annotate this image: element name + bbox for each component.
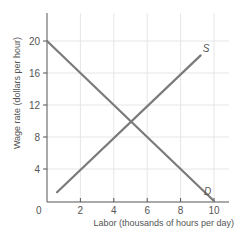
y-tick-label: 20 <box>29 36 41 47</box>
x-tick-label: 6 <box>144 205 150 216</box>
x-tick-label: 8 <box>178 205 184 216</box>
curve-label-d: D <box>204 186 211 197</box>
y-tick-label: 8 <box>34 132 40 143</box>
y-tick-label: 4 <box>34 164 40 175</box>
x-tick-label: 10 <box>208 205 220 216</box>
x-axis-title: Labor (thousands of hours per day) <box>93 218 234 228</box>
y-tick-label: 12 <box>29 100 41 111</box>
curves <box>47 41 214 201</box>
x-tick-label: 2 <box>78 205 84 216</box>
supply-demand-chart: 0 Labor (thousands of hours per day) Wag… <box>0 0 243 238</box>
gridlines <box>47 13 229 202</box>
y-axis-title: Wage rate (dollars per hour) <box>12 37 22 149</box>
curve-s <box>57 55 201 192</box>
origin-label: 0 <box>36 205 42 216</box>
x-tick-label: 4 <box>111 205 117 216</box>
y-tick-label: 16 <box>29 68 41 79</box>
curve-label-s: S <box>203 43 210 54</box>
